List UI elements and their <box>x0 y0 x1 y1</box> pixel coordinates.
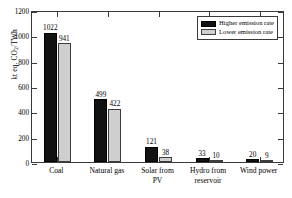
bar-value-label: 38 <box>162 150 169 157</box>
bar-lower: 941 <box>58 43 71 162</box>
y-axis-tick-label: 600 <box>18 85 29 92</box>
bar-value-label: 20 <box>249 152 256 159</box>
y-axis-tick-label: 1000 <box>15 35 29 42</box>
y-axis-tick-label: 1200 <box>15 9 29 16</box>
legend-swatch-higher-icon <box>201 21 216 27</box>
bar-value-label: 121 <box>146 139 157 146</box>
bar-lower: 10 <box>210 160 223 162</box>
legend-label-higher: Higher emission rate <box>219 20 274 27</box>
y-axis-tick-mirror <box>278 164 283 165</box>
y-axis-title: kt eq. CO2/TWh <box>10 0 19 115</box>
bar-value-label: 422 <box>110 101 121 108</box>
x-axis-category-label: Solar from PV <box>132 166 183 185</box>
y-axis-tick: 0 <box>32 164 37 165</box>
x-axis-category-label: Hydro from reservoir <box>183 166 234 185</box>
y-axis-tick-label: 400 <box>18 111 29 118</box>
legend-swatch-lower-icon <box>201 29 216 35</box>
bar-higher: 121 <box>145 147 158 162</box>
y-axis-tick-label: 200 <box>18 136 29 143</box>
bar-value-label: 10 <box>213 153 220 160</box>
legend-item-higher: Higher emission rate <box>201 20 274 28</box>
bar-lower: 422 <box>108 109 121 162</box>
bar-chart-figure: kt eq. CO2/TWh 020040060080010001200 102… <box>0 0 292 198</box>
x-axis-category-label: Wind power <box>233 166 284 176</box>
bar-higher: 1022 <box>44 33 57 162</box>
y-axis-tick-label: 800 <box>18 60 29 67</box>
legend-label-lower: Lower emission rate <box>219 29 273 36</box>
y-axis-title-prefix: kt eq. CO <box>10 50 19 80</box>
bar-value-label: 1022 <box>43 25 57 32</box>
legend-item-lower: Lower emission rate <box>201 28 274 36</box>
x-axis-category-label: Natural gas <box>82 166 133 176</box>
plot-area: 020040060080010001200 102294149942212138… <box>31 11 284 163</box>
legend: Higher emission rate Lower emission rate <box>197 16 278 40</box>
y-axis-tick-label: 0 <box>25 161 29 168</box>
bar-value-label: 9 <box>265 153 269 160</box>
bar-lower: 38 <box>159 157 172 162</box>
bar-value-label: 499 <box>96 92 107 99</box>
bar-higher: 33 <box>196 158 209 162</box>
bar-value-label: 33 <box>199 151 206 158</box>
bar-higher: 499 <box>94 99 107 162</box>
bar-value-label: 941 <box>59 36 70 43</box>
x-axis-category-label: Coal <box>31 166 82 176</box>
bar-lower: 9 <box>260 160 273 162</box>
y-axis-title-subscript: 2 <box>13 47 19 50</box>
bar-higher: 20 <box>246 159 259 162</box>
